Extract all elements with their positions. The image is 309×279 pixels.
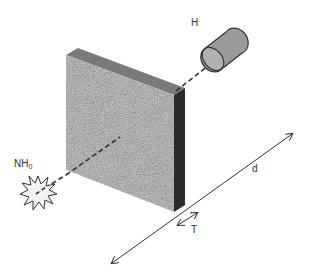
distance-label: d xyxy=(252,163,258,174)
slab-side-face xyxy=(174,88,185,212)
detector-label: H xyxy=(191,17,198,28)
shielding-diagram: NH0 H d T xyxy=(0,0,309,279)
detector-cylinder xyxy=(198,25,252,74)
shield-slab xyxy=(66,48,185,212)
thickness-label: T xyxy=(191,224,197,235)
source-label: NH0 xyxy=(14,158,32,170)
